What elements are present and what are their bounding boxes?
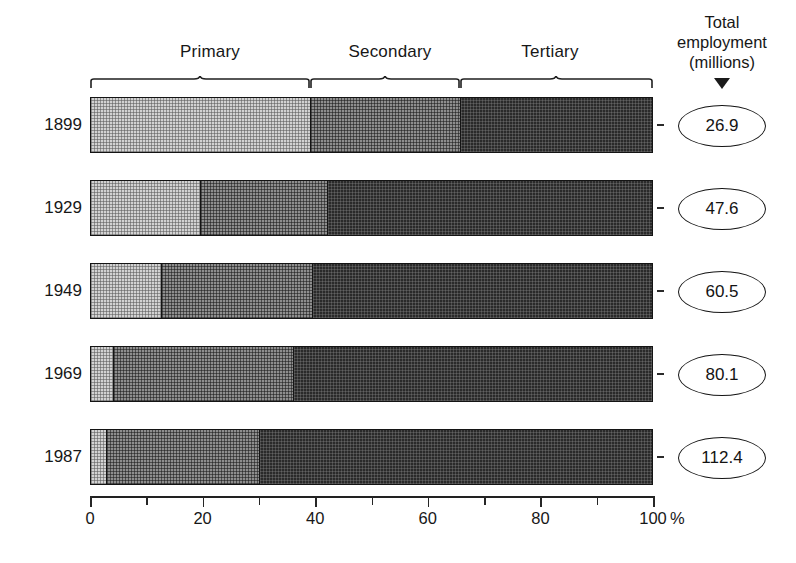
bar-segment-tertiary[interactable] (293, 347, 652, 401)
row-tick-stub (657, 373, 664, 375)
axis-tick-label: 40 (285, 509, 345, 528)
stacked-bar[interactable] (90, 180, 653, 236)
axis-tick (315, 496, 317, 507)
row-tick-stub (657, 124, 664, 126)
year-label: 1969 (18, 364, 82, 384)
axis-tick-label: 20 (173, 509, 233, 528)
group-label-secondary: Secondary (300, 42, 480, 62)
year-label: 1987 (18, 447, 82, 467)
bar-segment-primary[interactable] (91, 264, 161, 318)
axis-tick (146, 496, 148, 505)
axis-tick (653, 496, 655, 507)
row-tick-stub (657, 207, 664, 209)
bar-segment-tertiary[interactable] (312, 264, 652, 318)
total-employment-caption: Total employment (millions) (648, 12, 796, 72)
bar-segment-primary[interactable] (91, 347, 113, 401)
axis-tick (540, 496, 542, 507)
total-employment-value: 47.6 (705, 199, 738, 219)
bar-segment-secondary[interactable] (200, 181, 327, 235)
down-triangle-icon (714, 78, 730, 89)
employment-structure-chart: Primary Secondary Tertiary Total employm… (0, 0, 796, 563)
row-tick-stub (657, 290, 664, 292)
brace-tertiary (460, 76, 653, 88)
axis-tick-label: 60 (398, 509, 458, 528)
stacked-bar[interactable] (90, 263, 653, 319)
bar-segment-secondary[interactable] (310, 98, 460, 152)
year-label: 1949 (18, 281, 82, 301)
year-label: 1899 (18, 115, 82, 135)
axis-tick (428, 496, 430, 507)
axis-tick (203, 496, 205, 507)
bar-row: 194960.5 (0, 263, 796, 321)
axis-tick (90, 496, 92, 507)
bar-row: 196980.1 (0, 346, 796, 404)
bar-segment-secondary[interactable] (113, 347, 293, 401)
stacked-bar[interactable] (90, 429, 653, 485)
total-employment-bubble: 80.1 (678, 354, 766, 396)
bar-segment-primary[interactable] (91, 430, 106, 484)
axis-tick (259, 496, 261, 505)
caption-line-2: employment (648, 32, 796, 52)
axis-tick (372, 496, 374, 505)
total-employment-value: 80.1 (705, 365, 738, 385)
total-employment-value: 60.5 (705, 282, 738, 302)
bar-segment-tertiary[interactable] (460, 98, 652, 152)
total-employment-bubble: 60.5 (678, 271, 766, 313)
bar-row: 1987112.4 (0, 429, 796, 487)
bar-row: 192947.6 (0, 180, 796, 238)
total-employment-bubble: 26.9 (678, 105, 766, 147)
total-employment-value: 26.9 (705, 116, 738, 136)
stacked-bar[interactable] (90, 97, 653, 153)
bar-row: 189926.9 (0, 97, 796, 155)
bar-segment-tertiary[interactable] (259, 430, 652, 484)
axis-tick-label: 80 (510, 509, 570, 528)
group-label-tertiary: Tertiary (460, 42, 640, 62)
bar-segment-primary[interactable] (91, 181, 200, 235)
x-axis: 020406080100 % (0, 496, 796, 536)
bar-segment-secondary[interactable] (106, 430, 259, 484)
caption-line-1: Total (648, 12, 796, 32)
bar-segment-primary[interactable] (91, 98, 310, 152)
bar-segment-tertiary[interactable] (327, 181, 652, 235)
row-tick-stub (657, 456, 664, 458)
brace-secondary (310, 76, 460, 88)
brace-primary (90, 76, 310, 88)
total-employment-bubble: 47.6 (678, 188, 766, 230)
axis-tick (597, 496, 599, 505)
stacked-bar[interactable] (90, 346, 653, 402)
group-label-primary: Primary (110, 42, 310, 62)
total-employment-bubble: 112.4 (678, 437, 766, 479)
axis-tick-label: 0 (60, 509, 120, 528)
year-label: 1929 (18, 198, 82, 218)
bar-segment-secondary[interactable] (161, 264, 312, 318)
x-axis-unit: % (670, 509, 685, 528)
axis-tick (484, 496, 486, 505)
caption-line-3: (millions) (648, 52, 796, 72)
total-employment-value: 112.4 (701, 448, 742, 468)
